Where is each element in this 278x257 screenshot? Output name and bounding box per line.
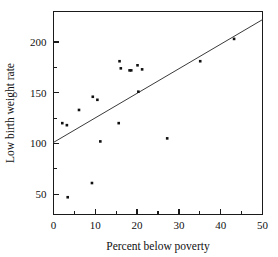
y-axis-title: Low birth weight rate: [4, 63, 17, 163]
x-axis-ticks: [54, 209, 263, 215]
data-point: [120, 67, 123, 70]
tick-labels-group: 0102030405050100150200: [30, 36, 269, 231]
data-point: [99, 140, 102, 143]
data-point: [141, 68, 144, 71]
data-point: [136, 64, 139, 67]
regression-line: [54, 20, 263, 143]
y-tick-label: 150: [30, 87, 47, 99]
plot-frame: [54, 12, 263, 215]
scatter-plot-figure: 0102030405050100150200 Percent below pov…: [0, 0, 278, 257]
y-axis-ticks: [54, 42, 60, 194]
y-tick-label: 100: [30, 137, 47, 149]
axis-frame-path: [54, 12, 263, 215]
data-point: [118, 60, 121, 63]
plot-canvas: 0102030405050100150200 Percent below pov…: [0, 0, 278, 257]
data-point: [166, 137, 169, 140]
data-point: [91, 95, 94, 98]
x-axis-title: Percent below poverty: [106, 240, 210, 253]
data-point: [61, 122, 64, 125]
x-tick-label: 20: [132, 219, 144, 231]
x-tick-label: 10: [90, 219, 102, 231]
x-tick-label: 0: [51, 219, 57, 231]
regression-line-group: [54, 20, 263, 143]
data-point: [233, 38, 236, 41]
data-point: [137, 90, 140, 93]
x-tick-label: 50: [257, 219, 269, 231]
data-point: [66, 196, 69, 199]
data-point: [91, 182, 94, 185]
data-points-group: [61, 38, 235, 199]
data-point: [66, 124, 69, 127]
data-point: [199, 60, 202, 63]
data-point: [117, 122, 120, 125]
x-tick-label: 40: [215, 219, 227, 231]
y-tick-label: 50: [36, 188, 48, 200]
data-point: [96, 99, 99, 102]
x-tick-label: 30: [173, 219, 185, 231]
data-point: [130, 69, 133, 72]
data-point: [78, 109, 81, 112]
y-tick-label: 200: [30, 36, 47, 48]
